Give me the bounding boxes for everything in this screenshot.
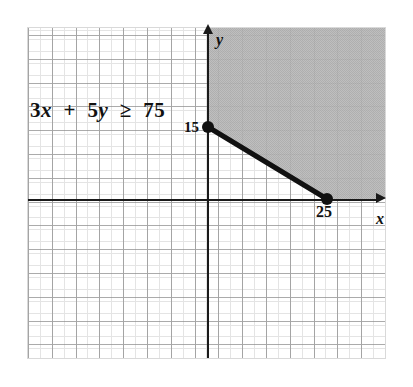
equation-coef-x: 3 xyxy=(30,98,41,122)
equation-coef-y: 5 xyxy=(87,98,98,122)
equation-var-y: y xyxy=(98,98,108,122)
equation-var-x: x xyxy=(41,98,52,122)
inequality-equation-label: 3x + 5y ≥ 75 xyxy=(30,100,165,121)
linear-inequality-figure: 15 25 y x 3x + 5y ≥ 75 xyxy=(0,0,413,387)
equation-plus-sign: + xyxy=(64,98,76,122)
plot-area: 15 25 y x 3x + 5y ≥ 75 xyxy=(28,28,385,358)
equation-constant: 75 xyxy=(143,98,165,122)
y-intercept-point xyxy=(202,121,214,133)
y-intercept-label: 15 xyxy=(184,120,199,135)
boundary-line-segment xyxy=(208,127,327,199)
y-axis-label: y xyxy=(216,32,223,48)
x-intercept-label: 25 xyxy=(316,204,332,220)
equation-relation-sign: ≥ xyxy=(120,98,132,122)
boundary-line-group xyxy=(28,28,385,358)
x-axis-label: x xyxy=(376,211,384,227)
